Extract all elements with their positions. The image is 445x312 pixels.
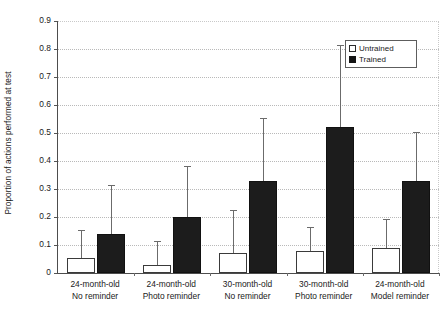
x-axis-tick-mark [210, 273, 211, 276]
y-axis-tick-label: 0.8 [25, 44, 51, 53]
error-bar-cap [307, 227, 314, 228]
bar-untrained [67, 258, 95, 273]
error-bar-cap [413, 132, 420, 133]
error-bar-cap [184, 166, 191, 167]
bar-trained [249, 181, 277, 273]
bar-group [58, 21, 134, 273]
legend-swatch-trained-icon [349, 56, 356, 63]
y-axis-title: Proportion of actions performed at test [2, 14, 16, 272]
x-axis-category-label: 30-month-oldPhoto reminder [281, 278, 367, 302]
x-axis-category-label: 30-month-oldNo reminder [205, 278, 291, 302]
list-item: Trained [349, 54, 413, 65]
error-bar [187, 167, 188, 217]
error-bar [386, 220, 387, 248]
bar-chart-figure: Proportion of actions performed at test … [0, 0, 445, 312]
category-label-line1: 30-month-old [223, 279, 272, 289]
y-axis-tick-label: 0.2 [25, 212, 51, 221]
error-bar [233, 211, 234, 253]
error-bar [157, 242, 158, 264]
bar-untrained [296, 251, 324, 273]
x-axis-tick-mark [363, 273, 364, 276]
legend-label-untrained: Untrained [359, 44, 394, 53]
error-bar-cap [78, 230, 85, 231]
category-label-line2: Model reminder [357, 290, 443, 302]
y-axis-tick-label: 0.9 [25, 16, 51, 25]
bar-group [210, 21, 286, 273]
bar-trained [97, 234, 125, 273]
x-axis-tick-mark [134, 273, 135, 276]
error-bar [340, 46, 341, 127]
error-bar [111, 186, 112, 234]
x-axis-category-label: 24-month-oldModel reminder [357, 278, 443, 302]
error-bar [310, 228, 311, 250]
bar-untrained [143, 265, 171, 273]
error-bar-cap [108, 185, 115, 186]
bar-trained [173, 217, 201, 273]
category-label-line1: 24-month-old [70, 279, 119, 289]
y-axis-tick-label: 0.3 [25, 184, 51, 193]
category-label-line2: Photo reminder [281, 290, 367, 302]
y-axis-tick-label: 0.4 [25, 156, 51, 165]
list-item: Untrained [349, 43, 413, 54]
category-label-line1: 24-month-old [375, 279, 424, 289]
y-axis-tick-label: 0.6 [25, 100, 51, 109]
bar-trained [326, 127, 354, 273]
error-bar [263, 119, 264, 181]
category-label-line2: Photo reminder [128, 290, 214, 302]
error-bar-cap [383, 219, 390, 220]
error-bar-cap [260, 118, 267, 119]
category-label-line1: 30-month-old [299, 279, 348, 289]
error-bar-cap [337, 45, 344, 46]
y-axis-tick-label: 0.5 [25, 128, 51, 137]
y-axis-tick-label: 0 [25, 268, 51, 277]
error-bar [81, 231, 82, 258]
legend: Untrained Trained [345, 40, 417, 68]
bar-group [134, 21, 210, 273]
x-axis-category-label: 24-month-oldNo reminder [52, 278, 138, 302]
y-axis-tick-labels: 0.90.80.70.60.50.40.30.20.10 [20, 0, 51, 312]
category-label-line2: No reminder [52, 290, 138, 302]
bar-trained [402, 181, 430, 273]
legend-swatch-untrained-icon [349, 45, 356, 52]
x-axis-category-labels: 24-month-oldNo reminder24-month-oldPhoto… [57, 278, 438, 310]
error-bar-cap [230, 210, 237, 211]
y-axis-tick-label: 0.1 [25, 240, 51, 249]
x-axis-tick-mark [439, 273, 440, 276]
legend-label-trained: Trained [359, 55, 386, 64]
error-bar [416, 133, 417, 181]
x-axis-category-label: 24-month-oldPhoto reminder [128, 278, 214, 302]
bar-untrained [219, 253, 247, 273]
error-bar-cap [154, 241, 161, 242]
category-label-line2: No reminder [205, 290, 291, 302]
y-axis-tick-label: 0.7 [25, 72, 51, 81]
x-axis-tick-mark [287, 273, 288, 276]
category-label-line1: 24-month-old [147, 279, 196, 289]
bar-untrained [372, 248, 400, 273]
